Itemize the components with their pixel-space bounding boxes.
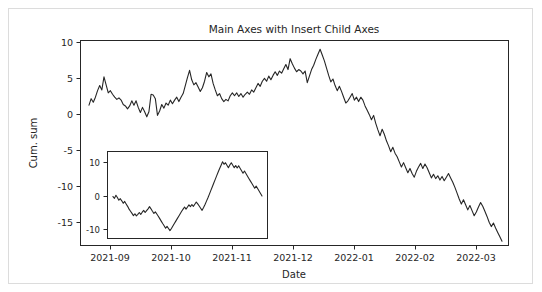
x-tick-label: 2021-10 xyxy=(151,252,191,263)
inset-y-tick-label: -10 xyxy=(86,225,100,235)
y-tick-label: -15 xyxy=(57,217,73,228)
x-tick-label: 2021-09 xyxy=(90,252,130,263)
x-tick-label: 2021-11 xyxy=(212,252,252,263)
x-tick-label: 2022-03 xyxy=(456,252,496,263)
inset-axes: 10 0 -10 xyxy=(86,152,267,239)
y-tick-label: 5 xyxy=(67,73,73,84)
page-title: Main Axes with Insert Child Axes xyxy=(209,23,380,35)
inset-y-tick-label: 0 xyxy=(95,192,100,202)
chart-svg: Main Axes with Insert Child Axes 10 5 0 … xyxy=(0,0,542,292)
y-tick-label: 10 xyxy=(61,37,73,48)
x-axis-label: Date xyxy=(282,269,306,280)
main-data-line xyxy=(89,49,502,241)
x-tick-label: 2022-02 xyxy=(395,252,435,263)
y-tick-label: -5 xyxy=(64,145,73,156)
inset-data-line xyxy=(113,162,262,231)
y-tick-label: -10 xyxy=(57,181,73,192)
inset-y-tick-label: 10 xyxy=(89,158,100,168)
figure-canvas: Main Axes with Insert Child Axes 10 5 0 … xyxy=(0,0,542,292)
y-axis-label: Cum. sum xyxy=(28,118,39,169)
y-axis-ticks: 10 5 0 -5 -10 -15 xyxy=(57,37,80,228)
x-axis-ticks: 2021-09 2021-10 2021-11 2021-12 2022-01 … xyxy=(90,246,496,264)
main-axes-frame xyxy=(81,41,509,246)
y-tick-label: 0 xyxy=(67,109,73,120)
inset-axes-frame xyxy=(108,152,268,239)
x-tick-label: 2021-12 xyxy=(273,252,313,263)
x-tick-label: 2022-01 xyxy=(334,252,374,263)
